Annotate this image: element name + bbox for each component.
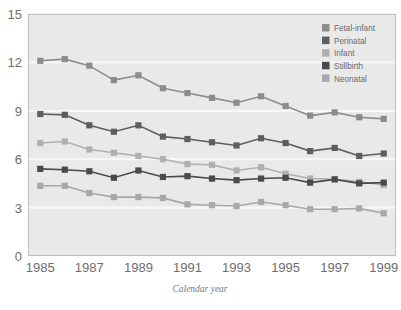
data-point-marker <box>307 206 313 212</box>
data-point-marker <box>332 176 338 182</box>
data-point-marker <box>233 167 239 173</box>
data-point-marker <box>209 202 215 208</box>
y-tick-label: 9 <box>15 104 22 119</box>
data-point-marker <box>86 190 92 196</box>
y-tick-label: 12 <box>8 55 22 70</box>
data-point-marker <box>209 139 215 145</box>
x-tick-label: 1985 <box>26 260 55 275</box>
data-point-marker <box>233 142 239 148</box>
data-point-marker <box>184 136 190 142</box>
data-point-marker <box>283 140 289 146</box>
data-point-marker <box>258 164 264 170</box>
data-point-marker <box>86 168 92 174</box>
data-point-marker <box>356 180 362 186</box>
data-point-marker <box>62 167 68 173</box>
data-point-marker <box>356 114 362 120</box>
data-point-marker <box>62 56 68 62</box>
data-point-marker <box>307 179 313 185</box>
data-point-marker <box>184 90 190 96</box>
data-point-marker <box>184 173 190 179</box>
data-point-marker <box>283 175 289 181</box>
y-tick-label: 15 <box>8 7 22 22</box>
data-point-marker <box>37 183 43 189</box>
data-point-marker <box>283 202 289 208</box>
data-point-marker <box>135 153 141 159</box>
data-point-marker <box>381 210 387 216</box>
data-point-marker <box>233 100 239 106</box>
x-tick-label: 1987 <box>75 260 104 275</box>
data-point-marker <box>381 150 387 156</box>
data-point-marker <box>283 103 289 109</box>
legend-label: Fetal-infant <box>334 24 376 33</box>
data-point-marker <box>160 85 166 91</box>
data-point-marker <box>135 122 141 128</box>
data-point-marker <box>135 167 141 173</box>
data-point-marker <box>86 146 92 152</box>
data-point-marker <box>356 205 362 211</box>
data-point-marker <box>209 162 215 168</box>
data-point-marker <box>258 93 264 99</box>
data-point-marker <box>62 112 68 118</box>
data-point-marker <box>160 174 166 180</box>
data-point-marker <box>86 63 92 69</box>
data-point-marker <box>233 177 239 183</box>
data-point-marker <box>332 145 338 151</box>
data-point-marker <box>233 203 239 209</box>
data-point-marker <box>184 161 190 167</box>
data-point-marker <box>381 179 387 185</box>
data-point-marker <box>258 199 264 205</box>
x-tick-label: 1997 <box>320 260 349 275</box>
data-point-marker <box>160 195 166 201</box>
legend-label: Stillbirth <box>334 62 364 71</box>
legend-swatch-icon <box>322 62 330 70</box>
legend-label: Infant <box>334 49 355 58</box>
data-point-marker <box>135 194 141 200</box>
legend-swatch-icon <box>322 37 330 45</box>
data-point-marker <box>160 134 166 140</box>
data-point-marker <box>86 122 92 128</box>
data-point-marker <box>307 113 313 119</box>
data-point-marker <box>160 156 166 162</box>
data-point-marker <box>37 140 43 146</box>
y-tick-label: 3 <box>15 201 22 216</box>
x-tick-label: 1993 <box>222 260 251 275</box>
data-point-marker <box>111 194 117 200</box>
x-tick-label: 1989 <box>124 260 153 275</box>
legend-swatch-icon <box>322 24 330 32</box>
data-point-marker <box>258 135 264 141</box>
x-axis-title: Calendar year <box>172 284 227 294</box>
data-point-marker <box>37 111 43 117</box>
data-point-marker <box>209 175 215 181</box>
legend-label: Perinatal <box>334 37 366 46</box>
y-tick-label: 6 <box>15 152 22 167</box>
data-point-marker <box>356 153 362 159</box>
data-point-marker <box>111 150 117 156</box>
x-tick-label: 1991 <box>173 260 202 275</box>
data-point-marker <box>37 58 43 64</box>
data-point-marker <box>111 129 117 135</box>
y-tick-label: 0 <box>15 249 22 264</box>
data-point-marker <box>381 116 387 122</box>
x-tick-label: 1995 <box>271 260 300 275</box>
legend-swatch-icon <box>322 49 330 57</box>
data-point-marker <box>111 77 117 83</box>
legend-label: Neonatal <box>334 75 367 84</box>
data-point-marker <box>332 109 338 115</box>
data-point-marker <box>258 175 264 181</box>
legend-swatch-icon <box>322 74 330 82</box>
data-point-marker <box>184 201 190 207</box>
data-point-marker <box>307 148 313 154</box>
data-point-marker <box>135 72 141 78</box>
line-chart-figure: 03691215 1985198719891991199319951997199… <box>0 0 401 310</box>
data-point-marker <box>62 138 68 144</box>
data-point-marker <box>332 206 338 212</box>
data-point-marker <box>62 183 68 189</box>
data-point-marker <box>209 95 215 101</box>
x-tick-label: 1999 <box>369 260 398 275</box>
data-point-marker <box>111 175 117 181</box>
data-point-marker <box>37 166 43 172</box>
